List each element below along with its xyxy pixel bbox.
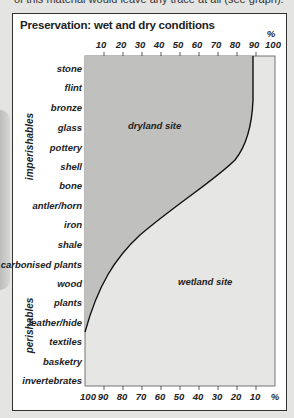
top-tick: 70	[211, 39, 222, 50]
row-label-bone: bone	[59, 180, 82, 191]
bottom-tick: 40	[193, 391, 204, 402]
row-label-textiles: textiles	[49, 336, 82, 347]
top-tick: 90	[249, 39, 260, 50]
row-label-basketry: basketry	[43, 356, 82, 367]
row-label-carbonised-plants: carbonised plants	[1, 259, 82, 270]
bottom-tick: 60	[155, 391, 166, 402]
top-tick: 10	[96, 39, 107, 50]
bottom-tick: 100	[80, 391, 96, 402]
row-label-shell: shell	[60, 161, 82, 172]
bottom-tick: 70	[136, 391, 147, 402]
bottom-tick: 10	[250, 391, 261, 402]
region-label-dryland: dryland site	[128, 120, 181, 131]
bottom-tick: 90	[98, 391, 109, 402]
row-label-iron: iron	[64, 219, 82, 230]
group-label-imperishables: imperishables	[24, 112, 35, 182]
row-label-bronze: bronze	[51, 102, 82, 113]
row-label-shale: shale	[58, 239, 82, 250]
top-axis-ticks	[104, 52, 256, 56]
row-label-glass: glass	[58, 122, 82, 133]
bottom-tick: 80	[117, 391, 128, 402]
row-label-flint: flint	[65, 82, 82, 93]
bottom-axis-ticks	[104, 386, 256, 390]
bottom-tick: 50	[174, 391, 185, 402]
row-label-leather-hide: leather/hide	[29, 317, 82, 328]
bottom-tick: 30	[212, 391, 223, 402]
top-tick: 20	[116, 39, 127, 50]
bottom-tick: 20	[231, 391, 242, 402]
row-label-invertebrates: invertebrates	[22, 375, 82, 386]
top-tick: 100	[265, 39, 281, 50]
top-tick: 50	[173, 39, 184, 50]
top-tick: 80	[230, 39, 241, 50]
bottom-axis-unit: %	[271, 391, 279, 402]
top-tick: 30	[135, 39, 146, 50]
row-label-pottery: pottery	[50, 142, 82, 153]
top-tick: 40	[154, 39, 165, 50]
top-tick: 60	[192, 39, 203, 50]
group-label-perishables: perishables	[24, 294, 35, 358]
row-label-stone: stone	[57, 63, 82, 74]
row-label-plants: plants	[54, 297, 82, 308]
row-label-antler-horn: antler/horn	[32, 200, 82, 211]
top-axis-unit: %	[267, 28, 275, 39]
row-label-wood: wood	[57, 278, 82, 289]
region-label-wetland: wetland site	[178, 276, 232, 287]
